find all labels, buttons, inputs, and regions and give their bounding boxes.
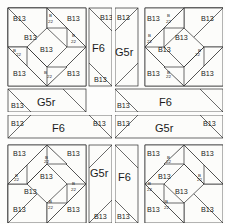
- strip-f6-horizontal: B13 F6 B13: [8, 115, 112, 138]
- patch-label-b13: B13: [203, 119, 216, 128]
- patch-label-b22-line2: 22: [16, 52, 21, 57]
- quadrant-top-right-svg: B13 G5r B13 B13 B13 B13 B13 B: [115, 4, 223, 112]
- patch-label-g5r: G5r: [90, 167, 109, 179]
- patch-label-b13: B13: [67, 14, 80, 23]
- patch-label-b13: B13: [201, 69, 214, 78]
- patch-label-b13: B13: [147, 205, 160, 214]
- patch-label-b22-line1: B: [72, 181, 75, 186]
- patch-label-b13: B13: [93, 119, 106, 128]
- patch-label-b22-line2: 22: [48, 19, 53, 24]
- patch-label-b13: B13: [13, 14, 26, 23]
- star-block-top-left: B13 B13 B13 B13 B13 B13 B 22 B 22 B 22 B…: [8, 8, 86, 86]
- patch-label-b22-line2: 22: [44, 159, 49, 164]
- patch-label-b22-line1: B: [49, 13, 52, 18]
- strip-f6-vertical: F6 B13: [115, 145, 138, 223]
- quadrant-bottom-left-svg: B13 F6 B13 B13 B13 B13 B13 B13: [4, 115, 112, 223]
- patch-label-b13: B13: [40, 45, 53, 54]
- patch-label-b13: B13: [147, 69, 160, 78]
- patch-label-b22-line2: 22: [195, 52, 200, 57]
- patch-label-b13: B13: [117, 13, 130, 22]
- patch-label-b13: B13: [13, 149, 26, 158]
- patch-label-b13: B13: [67, 149, 80, 158]
- patch-label-b22-line1: B: [165, 199, 168, 204]
- strip-g5r-vertical: B13 G5r: [115, 8, 138, 86]
- patch-label-b22-line1: B: [72, 33, 75, 38]
- patch-label-b22-line2: 22: [147, 187, 152, 192]
- patch-label-b13: B13: [67, 69, 80, 78]
- patch-label-b22-line2: 22: [197, 177, 202, 182]
- patch-label-b22-line2: 22: [164, 205, 169, 210]
- patch-label-b22-line2: 22: [71, 187, 76, 192]
- patch-label-b13: B13: [117, 101, 130, 110]
- patch-label-b22-line2: 22: [166, 159, 171, 164]
- patch-label-f6: F6: [118, 171, 131, 183]
- patch-label-b22-line1: B: [148, 33, 151, 38]
- patch-label-b22-line2: 22: [48, 205, 53, 210]
- patch-label-b13: B13: [147, 14, 160, 23]
- quadrant-bottom-right-svg: B13 G5r B13 F6 B13: [115, 115, 223, 223]
- patch-label-b13: B13: [158, 172, 171, 181]
- quilt-diagram-canvas: B13 B13 B13 B13 B13 B13 B 22 B 22 B 22 B…: [0, 0, 225, 224]
- strip-g5r-horizontal: B13 G5r B13: [115, 115, 223, 138]
- patch-label-b13: B13: [201, 149, 214, 158]
- patch-label-b13: B13: [24, 33, 37, 42]
- patch-label-b22-line2: 22: [71, 39, 76, 44]
- patch-label-b22-line1: B: [49, 199, 52, 204]
- patch-label-b13: B13: [175, 33, 188, 42]
- patch-label-g5r: G5r: [155, 122, 174, 134]
- patch-label-b13: B13: [13, 205, 26, 214]
- patch-label-b13: B13: [94, 212, 107, 221]
- patch-label-b13: B13: [175, 187, 188, 196]
- patch-label-b22-line2: 22: [47, 74, 52, 79]
- patch-label-b22-line1: B: [148, 181, 151, 186]
- patch-label-f6: F6: [92, 42, 105, 54]
- patch-label-b22-line1: B: [167, 13, 170, 18]
- patch-label-b13: B13: [117, 119, 130, 128]
- patch-label-b13: B13: [147, 149, 160, 158]
- patch-label-b13: B13: [67, 205, 80, 214]
- strip-f6-horizontal: B13 F6: [115, 89, 223, 112]
- strip-g5r-vertical: G5r B13: [89, 145, 112, 223]
- patch-label-b13: B13: [100, 13, 112, 22]
- patch-label-f6: F6: [52, 122, 65, 134]
- patch-label-b22-line2: 22: [14, 177, 19, 182]
- quadrant-top-right: B13 G5r B13 B13 B13 B13 B13 B: [115, 4, 225, 116]
- patch-label-g5r: G5r: [115, 46, 134, 58]
- patch-label-b13: B13: [24, 187, 37, 196]
- patch-label-b13: B13: [158, 45, 171, 54]
- patch-label-f6: F6: [159, 96, 172, 108]
- patch-label-b22-line2: 22: [166, 19, 171, 24]
- patch-label-b22-line2: 22: [166, 74, 171, 79]
- quadrant-top-left-svg: B13 B13 B13 B13 B13 B13 B 22 B 22 B 22 B…: [4, 4, 112, 112]
- patch-label-b13: B13: [117, 212, 130, 221]
- patch-label-b13: B13: [94, 75, 107, 84]
- patch-label-b13: B13: [11, 119, 24, 128]
- patch-label-b13: B13: [201, 14, 214, 23]
- quadrant-bottom-left: B13 F6 B13 B13 B13 B13 B13 B13: [4, 115, 116, 224]
- patch-label-b13: B13: [201, 205, 214, 214]
- patch-label-b13: B13: [13, 69, 26, 78]
- strip-g5r-horizontal: B13 G5r: [8, 89, 86, 112]
- patch-label-g5r: G5r: [37, 96, 56, 108]
- strip-f6-vertical: B13 F6 B13: [89, 8, 112, 86]
- quadrant-top-left: B13 B13 B13 B13 B13 B13 B 22 B 22 B 22 B…: [4, 4, 116, 116]
- patch-label-b13: B13: [11, 101, 24, 110]
- patch-label-b22-line2: 22: [147, 39, 152, 44]
- patch-label-b13: B13: [40, 172, 53, 181]
- quadrant-bottom-right: B13 G5r B13 F6 B13: [115, 115, 225, 224]
